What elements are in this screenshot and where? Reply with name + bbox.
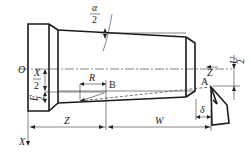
w-dim-arrow-right <box>205 125 210 129</box>
delta-arrow-right <box>207 115 211 119</box>
u-half-arrow-bottom <box>232 86 236 91</box>
delta-arrow-left <box>196 115 200 119</box>
delta-dimension: δ <box>196 99 211 120</box>
e-half-den: 2 <box>35 96 46 101</box>
z-axis-label: Z <box>207 67 213 78</box>
x-half-num: X <box>33 67 41 78</box>
w-dim-arrow-left <box>108 125 113 129</box>
origin-label: O <box>18 64 25 75</box>
angle-arrow-top <box>103 28 107 33</box>
e-half-dimension: E 2 <box>28 92 47 103</box>
end-chamfer <box>186 37 195 97</box>
r-arrow-left <box>80 82 84 86</box>
cutting-tool <box>211 87 229 125</box>
z-dim-arrow-right <box>99 125 104 129</box>
x-half-dimension: X 2 <box>33 67 47 91</box>
e-half-arrow-top <box>43 92 47 96</box>
r-dimension: R <box>80 72 106 100</box>
w-dim-label: W <box>155 115 165 126</box>
x-half-den: 2 <box>34 80 39 91</box>
x-axis-label: X <box>18 136 26 147</box>
u-half-den: 2 <box>235 59 246 64</box>
alpha-den: 2 <box>92 14 97 25</box>
angle-arrow-bottom <box>103 34 107 39</box>
taper-turning-diagram: α 2 O X 2 E 2 R B A <box>0 0 251 158</box>
b-leader-arrow <box>80 98 85 101</box>
bottom-dimensions: Z W X <box>18 110 211 147</box>
z-dim-arrow-left <box>30 125 35 129</box>
r-arrow-right <box>102 82 106 86</box>
delta-label: δ <box>200 104 205 115</box>
u-half-dimension: U 2 <box>213 55 246 100</box>
alpha-label: α <box>92 2 98 13</box>
alpha-angle: α 2 <box>90 2 186 51</box>
x-half-arrow-bottom <box>43 86 47 91</box>
point-b-label: B <box>109 79 116 90</box>
x-axis-arrow <box>26 141 30 146</box>
taper-top-edge <box>58 30 186 37</box>
taper-bottom-edge <box>58 97 186 103</box>
z-dim-label: Z <box>64 115 70 126</box>
r-label: R <box>88 72 95 83</box>
x-half-arrow-top <box>43 69 47 74</box>
